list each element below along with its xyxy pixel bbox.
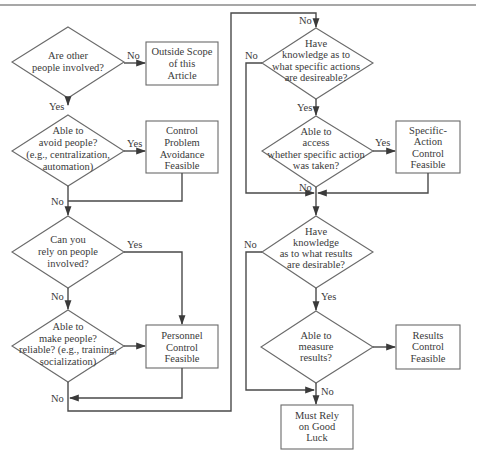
flowchart: Are otherpeople involved? Outside Scopeo… [0,0,478,463]
svg-text:Specific-ActionControlFeasible: Specific-ActionControlFeasible [409,125,447,170]
svg-text:ResultsControlFeasible: ResultsControlFeasible [411,330,446,364]
decision-access-action: Able toaccesswhether specific actionwas … [262,116,373,187]
label-avoid-yes: Yes [127,138,142,149]
decision-other-people: Are otherpeople involved? [12,27,124,98]
label-spec-yes: Yes [297,102,312,113]
label-spec-no-left: No [245,50,258,61]
label-other-yes: Yes [49,101,64,112]
label-rely-no: No [51,291,64,302]
label-reliable-no: No [51,393,64,404]
svg-text:PersonnelControlFeasible: PersonnelControlFeasible [161,330,202,364]
outcome-results-control: ResultsControlFeasible [396,325,460,369]
edge-rely-yes [124,252,182,324]
decision-specific-actions: Haveknowledge as towhat specific actions… [262,28,373,99]
outcome-outside-scope: Outside Scopeof thisArticle [146,42,218,85]
edge-personnel-merge [70,368,182,398]
label-access-no: No [299,182,312,193]
label-rely-yes: Yes [127,239,142,250]
outcome-good-luck: Must Relyon GoodLuck [281,405,353,449]
label-other-no: No [127,50,140,61]
decision-avoid-people: Able toavoid people?(e.g., centralizatio… [12,115,124,186]
label-results-no: No [244,239,257,250]
label-spec-no-top: No [299,15,312,26]
edge-specific-merge [318,173,428,193]
edge-avoidance-merge [68,173,182,201]
label-results-yes: Yes [321,291,336,302]
decision-rely-on-people: Can yourely on peopleinvolved? [12,216,124,288]
decision-results-desirable: Haveknowledgeas to what resultsare desir… [262,216,373,288]
outcome-personnel-control: PersonnelControlFeasible [146,325,218,368]
label-avoid-no: No [51,196,64,207]
svg-text:Able tomeasureresults?: Able tomeasureresults? [299,330,334,363]
svg-text:Able tomake people?reliable? (: Able tomake people?reliable? (e.g., trai… [19,321,117,368]
decision-make-reliable: Able tomake people?reliable? (e.g., trai… [12,310,124,382]
svg-text:Haveknowledge as towhat specif: Haveknowledge as towhat specific actions… [272,38,360,83]
label-access-yes: Yes [375,137,390,148]
outcome-specific-action-control: Specific-ActionControlFeasible [396,121,460,173]
label-measure-no: No [321,386,334,397]
decision-measure-results: Able tomeasureresults? [261,311,373,383]
outcome-control-problem-avoidance: ControlProblemAvoidanceFeasible [146,121,218,173]
